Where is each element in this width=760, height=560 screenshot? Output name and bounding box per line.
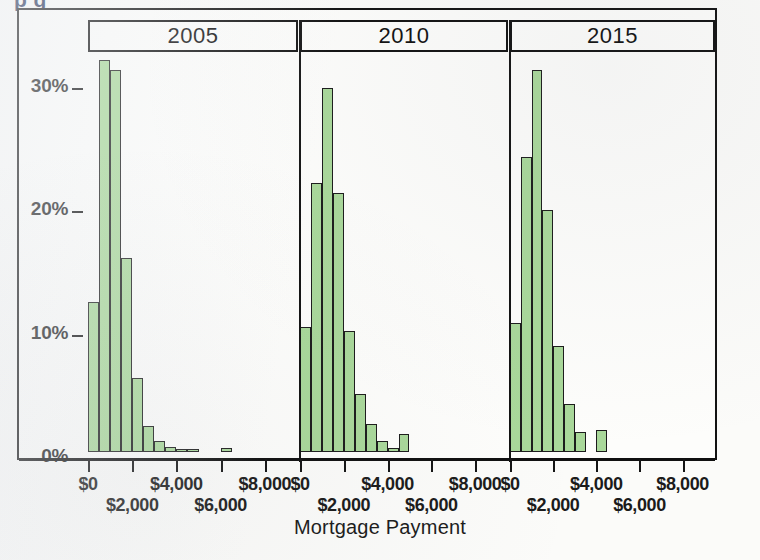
x-tick-label: $0 xyxy=(290,474,309,495)
x-tick-label: $8,000 xyxy=(656,474,709,495)
x-tick-mark xyxy=(475,459,477,472)
x-tick-mark xyxy=(265,459,267,472)
x-tick-label: $2,000 xyxy=(527,495,580,516)
x-tick-label: $8,000 xyxy=(239,474,292,495)
x-tick-mark xyxy=(344,459,346,472)
x-tick-label: $2,000 xyxy=(106,495,159,516)
x-tick-mark xyxy=(388,459,390,472)
y-tick-label: 10% xyxy=(8,322,68,344)
x-tick-mark xyxy=(683,459,685,472)
x-tick-mark xyxy=(510,459,512,472)
x-tick-mark xyxy=(553,459,555,472)
x-tick-label: $6,000 xyxy=(613,495,666,516)
x-tick-label: $4,000 xyxy=(150,474,203,495)
x-tick-mark xyxy=(132,459,134,472)
x-tick-label: $4,000 xyxy=(361,474,414,495)
x-tick-label: $6,000 xyxy=(194,495,247,516)
y-tick-label: 0% xyxy=(8,445,68,467)
y-tick-label: 30% xyxy=(8,75,68,97)
x-axis-baseline xyxy=(19,458,715,461)
x-tick-label: $4,000 xyxy=(570,474,623,495)
y-tick-mark xyxy=(72,335,83,337)
x-tick-label: $8,000 xyxy=(449,474,502,495)
x-tick-label: $0 xyxy=(78,474,97,495)
y-tick-label: 20% xyxy=(8,198,68,220)
y-tick-mark xyxy=(72,88,83,90)
x-tick-label: $0 xyxy=(500,474,519,495)
x-tick-mark xyxy=(639,459,641,472)
x-tick-mark xyxy=(596,459,598,472)
x-tick-mark xyxy=(176,459,178,472)
x-tick-label: $2,000 xyxy=(317,495,370,516)
x-tick-label: $6,000 xyxy=(405,495,458,516)
x-tick-mark xyxy=(431,459,433,472)
y-tick-mark xyxy=(72,211,83,213)
x-axis-title: Mortgage Payment xyxy=(0,516,760,539)
x-tick-mark xyxy=(221,459,223,472)
x-tick-mark xyxy=(300,459,302,472)
x-tick-mark xyxy=(88,459,90,472)
